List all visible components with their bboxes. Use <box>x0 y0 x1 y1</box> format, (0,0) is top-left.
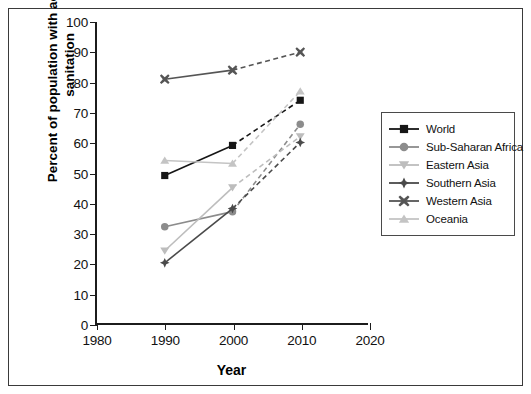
series-line-segment <box>165 70 233 79</box>
x-axis-tick <box>234 323 235 330</box>
series-data-point <box>229 142 236 149</box>
legend-item[interactable]: Southern Asia <box>387 174 509 192</box>
y-axis-title: Percent of population with access to san… <box>45 0 79 190</box>
legend-marker-icon <box>387 121 421 137</box>
legend-label: Southern Asia <box>426 177 496 189</box>
legend-label: Western Asia <box>426 195 492 207</box>
y-axis-tick <box>90 174 97 175</box>
series-line-segment <box>233 52 301 70</box>
legend-label: Eastern Asia <box>426 159 489 171</box>
x-axis-tick <box>165 323 166 330</box>
x-axis-tick <box>97 323 98 330</box>
y-axis-tick <box>90 83 97 84</box>
x-axis-tick-label: 1990 <box>151 333 180 348</box>
legend-label: Oceania <box>426 213 468 225</box>
y-axis-tick <box>90 22 97 23</box>
legend-item[interactable]: Western Asia <box>387 192 509 210</box>
chart-figure: 0102030405060708090100198019902000201020… <box>0 0 531 394</box>
y-axis-title-line2: sanitation <box>62 33 77 97</box>
legend-item[interactable]: World <box>387 120 509 138</box>
x-axis-tick-label: 2020 <box>355 333 384 348</box>
legend-marker-icon <box>387 175 421 191</box>
series-data-point <box>160 248 169 255</box>
series-line-segment <box>233 136 301 187</box>
chart-legend: WorldSub-Saharan AfricaEastern AsiaSouth… <box>381 112 515 236</box>
y-axis-tick <box>90 325 97 326</box>
legend-item[interactable]: Eastern Asia <box>387 156 509 174</box>
legend-label: Sub-Saharan Africa <box>426 141 523 153</box>
y-axis-tick <box>90 113 97 114</box>
x-axis-tick-label: 2010 <box>287 333 316 348</box>
y-axis-tick-label: 40 <box>73 196 88 211</box>
y-axis-tick <box>90 234 97 235</box>
data-series-layer <box>97 22 368 323</box>
series-line-segment <box>165 209 233 263</box>
x-axis-tick-label: 1980 <box>82 333 111 348</box>
y-axis-tick <box>90 295 97 296</box>
x-axis-title: Year <box>95 362 368 378</box>
y-axis-tick <box>90 264 97 265</box>
legend-marker-icon <box>387 139 421 155</box>
series-data-point <box>296 121 304 129</box>
legend-label: World <box>426 123 455 135</box>
legend-marker-icon <box>387 211 421 227</box>
series-line-segment <box>233 124 301 211</box>
y-axis-tick <box>90 52 97 53</box>
plot-inner: 0102030405060708090100198019902000201020… <box>97 22 368 323</box>
series-data-point <box>161 223 169 231</box>
plot-area: 0102030405060708090100198019902000201020… <box>95 22 368 325</box>
x-axis-tick-label: 2000 <box>219 333 248 348</box>
series-data-point <box>297 97 304 104</box>
y-axis-tick-label: 30 <box>73 227 88 242</box>
series-line-segment <box>233 142 301 208</box>
legend-item[interactable]: Sub-Saharan Africa <box>387 138 509 156</box>
series-data-point <box>161 172 168 179</box>
y-axis-title-line1: Percent of population with access to <box>45 0 60 182</box>
series-data-point <box>295 47 305 57</box>
x-axis-tick <box>302 323 303 330</box>
series-data-point <box>296 87 305 94</box>
y-axis-tick <box>90 204 97 205</box>
x-axis-tick <box>370 323 371 330</box>
y-axis-tick-label: 10 <box>73 287 88 302</box>
y-axis-tick-label: 0 <box>81 318 88 333</box>
legend-item[interactable]: Oceania <box>387 210 509 228</box>
y-axis-tick-label: 20 <box>73 257 88 272</box>
legend-marker-icon <box>387 157 421 173</box>
y-axis-tick <box>90 143 97 144</box>
legend-marker-icon <box>387 193 421 209</box>
series-line-segment <box>165 188 233 251</box>
